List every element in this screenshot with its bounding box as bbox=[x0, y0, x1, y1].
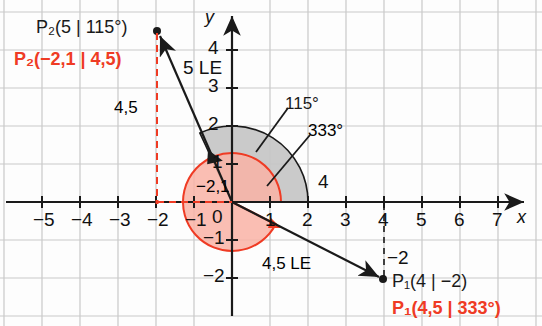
x-tick-3: 3 bbox=[340, 210, 351, 229]
x-tick--5: −5 bbox=[33, 210, 55, 229]
y-tick-4: 4 bbox=[208, 38, 219, 57]
x-tick--4: −4 bbox=[71, 210, 93, 229]
y-tick-3: 3 bbox=[208, 76, 219, 95]
x-tick-6: 6 bbox=[454, 210, 465, 229]
y-axis-label: y bbox=[205, 8, 214, 26]
y-tick--1: −1 bbox=[203, 228, 225, 247]
x-tick-1: 1 bbox=[265, 210, 276, 229]
y-tick-2: 2 bbox=[208, 114, 219, 133]
y-tick--2: −2 bbox=[203, 266, 225, 285]
coord-x-p2-label: −2,1 bbox=[196, 178, 230, 195]
angle-115-label: 115° bbox=[285, 95, 319, 112]
origin-label: 0 bbox=[212, 207, 223, 226]
point-p1-dot bbox=[379, 275, 387, 283]
x-tick--3: −3 bbox=[109, 210, 131, 229]
point-p1-cartesian-label: P₁(4 | −2) bbox=[392, 272, 467, 290]
dashed-tick--2-label: −2 bbox=[387, 248, 409, 267]
drop-y-p2-label: 4,5 bbox=[114, 99, 138, 116]
x-tick-7: 7 bbox=[492, 210, 503, 229]
point-p1-polar-label: P₁(4,5 | 333°) bbox=[392, 299, 501, 317]
x-tick-2: 2 bbox=[302, 210, 313, 229]
x-axis-label: x bbox=[517, 208, 526, 226]
x-tick-5: 5 bbox=[416, 210, 427, 229]
x-tick--2: −2 bbox=[147, 210, 169, 229]
point-p2-cartesian-label: P₂(5 | 115°) bbox=[36, 18, 128, 36]
angle-333-label: 333° bbox=[308, 122, 343, 139]
point-p2-polar-label: P₂(−2,1 | 4,5) bbox=[14, 50, 122, 68]
length-p2-label: 5 LE bbox=[183, 58, 222, 77]
radius-gray-label: 4 bbox=[318, 172, 329, 191]
x-tick-4: 4 bbox=[378, 210, 389, 229]
y-tick-1: 1 bbox=[212, 152, 223, 171]
polar-coordinate-diagram: x y −5 −4 −3 −2 −1 1 2 3 4 5 6 7 4 3 2 1… bbox=[0, 0, 542, 326]
length-p1-label: 4,5 LE bbox=[262, 255, 311, 272]
